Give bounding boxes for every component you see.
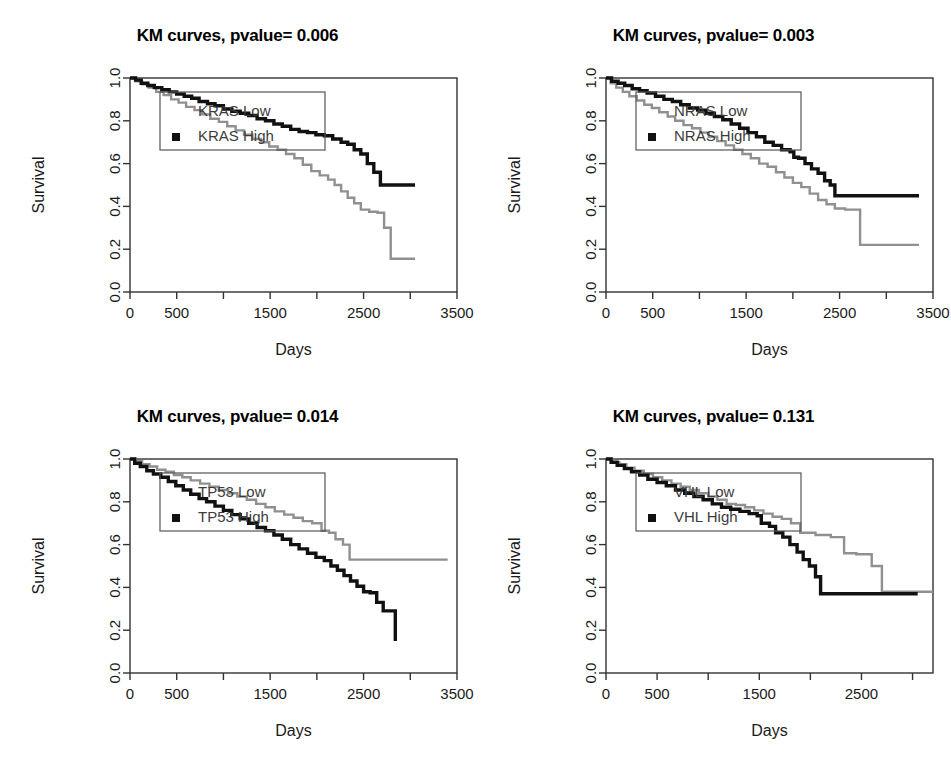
legend-label: KRAS Low <box>198 102 271 119</box>
y-tick-label: 0.6 <box>106 534 123 555</box>
x-tick-label: 0 <box>602 304 610 321</box>
x-tick-label: 500 <box>645 685 670 702</box>
x-tick-label: 3500 <box>440 304 473 321</box>
x-tick-label: 0 <box>126 685 134 702</box>
legend-marker-square <box>648 133 656 141</box>
legend-label: VHL Low <box>674 483 734 500</box>
panel-kras: KM curves, pvalue= 0.006 050015002500350… <box>0 0 475 381</box>
legend-label: NRAS Low <box>674 102 748 119</box>
x-tick-label: 500 <box>164 304 189 321</box>
y-tick-label: 1.0 <box>582 68 599 89</box>
x-tick-label: 3500 <box>916 304 949 321</box>
legend-label: TP53 Low <box>198 483 266 500</box>
x-tick-label: 1500 <box>743 685 776 702</box>
y-tick-label: 0.8 <box>106 491 123 512</box>
y-tick-label: 0.0 <box>106 282 123 303</box>
x-axis-title: Days <box>275 341 311 358</box>
y-tick-label: 0.2 <box>106 239 123 260</box>
y-tick-label: 0.4 <box>582 196 599 217</box>
plot-area-nras: 05001500250035000.00.20.40.60.81.0DaysSu… <box>476 0 951 381</box>
y-tick-label: 0.6 <box>582 153 599 174</box>
x-axis-title: Days <box>751 341 787 358</box>
legend-label: NRAS High <box>674 127 751 144</box>
y-tick-label: 1.0 <box>106 68 123 89</box>
x-tick-label: 0 <box>126 304 134 321</box>
x-tick-label: 1500 <box>253 685 286 702</box>
y-tick-label: 0.8 <box>106 110 123 131</box>
x-axis-title: Days <box>275 722 311 739</box>
x-tick-label: 1500 <box>253 304 286 321</box>
panel-tp53: KM curves, pvalue= 0.014 050015002500350… <box>0 381 475 762</box>
legend-label: TP53 High <box>198 508 269 525</box>
y-tick-label: 0.6 <box>106 153 123 174</box>
km-curves-figure: KM curves, pvalue= 0.006 050015002500350… <box>0 0 951 762</box>
y-axis-title: Survival <box>30 157 47 214</box>
y-tick-label: 0.4 <box>106 577 123 598</box>
y-tick-label: 0.2 <box>582 620 599 641</box>
y-tick-label: 0.6 <box>582 534 599 555</box>
survival-curve-low <box>606 78 919 245</box>
y-tick-label: 0.8 <box>582 110 599 131</box>
x-tick-label: 2500 <box>347 304 380 321</box>
legend-marker-square <box>172 133 180 141</box>
x-axis-title: Days <box>751 722 787 739</box>
legend-label: KRAS High <box>198 127 274 144</box>
y-tick-label: 0.0 <box>582 663 599 684</box>
legend-label: VHL High <box>674 508 738 525</box>
y-tick-label: 1.0 <box>582 449 599 470</box>
survival-curve-high <box>606 459 918 594</box>
x-tick-label: 0 <box>602 685 610 702</box>
plot-frame <box>606 459 933 673</box>
x-tick-label: 3500 <box>440 685 473 702</box>
plot-area-tp53: 05001500250035000.00.20.40.60.81.0DaysSu… <box>0 381 475 762</box>
y-tick-label: 0.8 <box>582 491 599 512</box>
x-tick-label: 1500 <box>729 304 762 321</box>
y-tick-label: 0.2 <box>582 239 599 260</box>
x-tick-label: 500 <box>640 304 665 321</box>
y-axis-title: Survival <box>30 538 47 595</box>
y-tick-label: 0.4 <box>106 196 123 217</box>
plot-frame <box>606 78 933 292</box>
plot-area-kras: 05001500250035000.00.20.40.60.81.0DaysSu… <box>0 0 475 381</box>
legend-marker-square <box>648 514 656 522</box>
y-tick-label: 0.4 <box>582 577 599 598</box>
y-tick-label: 0.2 <box>106 620 123 641</box>
x-tick-label: 2500 <box>845 685 878 702</box>
survival-curve-low <box>130 459 448 560</box>
y-tick-label: 1.0 <box>106 449 123 470</box>
legend-marker-square <box>172 514 180 522</box>
y-tick-label: 0.0 <box>582 282 599 303</box>
x-tick-label: 500 <box>164 685 189 702</box>
y-axis-title: Survival <box>506 538 523 595</box>
plot-area-vhl: 0500150025000.00.20.40.60.81.0DaysSurviv… <box>476 381 951 762</box>
panel-nras: KM curves, pvalue= 0.003 050015002500350… <box>476 0 951 381</box>
y-tick-label: 0.0 <box>106 663 123 684</box>
panel-vhl: KM curves, pvalue= 0.131 0500150025000.0… <box>476 381 951 762</box>
x-tick-label: 2500 <box>347 685 380 702</box>
x-tick-label: 2500 <box>823 304 856 321</box>
y-axis-title: Survival <box>506 157 523 214</box>
plot-frame <box>130 459 457 673</box>
